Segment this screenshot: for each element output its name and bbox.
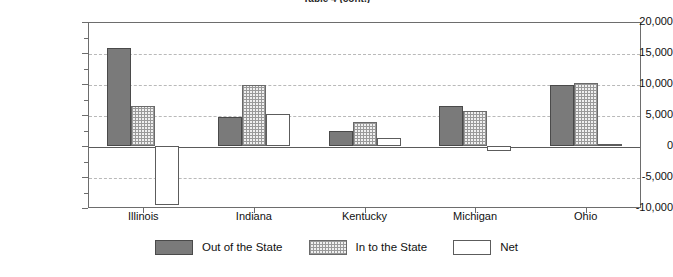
x-axis-label: Kentucky: [342, 210, 387, 223]
legend-label: Net: [500, 241, 518, 254]
bar-indiana-out-of-the-state: [218, 117, 242, 146]
x-axis-label: Michigan: [453, 210, 497, 223]
y-axis-minor-tick: [84, 131, 88, 132]
y-axis-label: 5,000: [599, 109, 673, 120]
migration-bar-chart: Table 4 (cont.) 20,00015,00010,0005,0000…: [0, 0, 673, 277]
y-axis-tick: [82, 84, 88, 85]
bar-ohio-in-to-the-state: [574, 83, 598, 146]
bar-indiana-in-to-the-state: [242, 85, 266, 146]
y-axis-label: -5,000: [599, 171, 673, 182]
y-axis-minor-tick: [84, 162, 88, 163]
y-axis-minor-tick: [84, 38, 88, 39]
y-axis-minor-tick: [84, 193, 88, 194]
y-axis-label: 20,000: [599, 16, 673, 27]
y-axis-label: 15,000: [599, 47, 673, 58]
bar-illinois-in-to-the-state: [131, 106, 155, 146]
y-axis-line: [88, 22, 89, 208]
y-axis-tick: [82, 53, 88, 54]
y-axis-tick: [82, 177, 88, 178]
gridline: [89, 54, 640, 55]
x-axis-label: Illinois: [128, 210, 159, 223]
y-axis-tick: [82, 115, 88, 116]
y-axis-tick: [82, 146, 88, 147]
bar-ohio-net: [598, 144, 622, 146]
y-axis-minor-tick: [84, 69, 88, 70]
bar-indiana-net: [266, 114, 290, 146]
chart-legend: Out of the StateIn to the StateNet: [0, 240, 673, 255]
legend-label: In to the State: [356, 241, 428, 254]
chart-title: Table 4 (cont.): [0, 0, 673, 3]
y-axis-label: 10,000: [599, 78, 673, 89]
bar-michigan-out-of-the-state: [439, 106, 463, 146]
bar-michigan-net: [487, 146, 511, 151]
legend-label: Out of the State: [202, 241, 283, 254]
bar-kentucky-out-of-the-state: [329, 131, 353, 146]
bar-ohio-out-of-the-state: [550, 85, 574, 146]
x-axis-label: Indiana: [236, 210, 272, 223]
legend-item: In to the State: [309, 240, 428, 255]
y-axis-label: -10,000: [599, 202, 673, 213]
hatched-gray-swatch: [309, 240, 347, 255]
solid-gray-swatch: [155, 240, 193, 255]
legend-item: Out of the State: [155, 240, 283, 255]
bar-illinois-out-of-the-state: [107, 48, 131, 146]
y-axis-minor-tick: [84, 100, 88, 101]
bar-illinois-net: [155, 146, 179, 205]
y-axis-tick: [82, 22, 88, 23]
white-swatch: [453, 240, 491, 255]
y-axis-tick: [82, 208, 88, 209]
bar-michigan-in-to-the-state: [463, 111, 487, 146]
bar-kentucky-in-to-the-state: [353, 122, 377, 146]
bar-kentucky-net: [377, 138, 401, 146]
legend-item: Net: [453, 240, 518, 255]
x-axis-label: Ohio: [574, 210, 597, 223]
